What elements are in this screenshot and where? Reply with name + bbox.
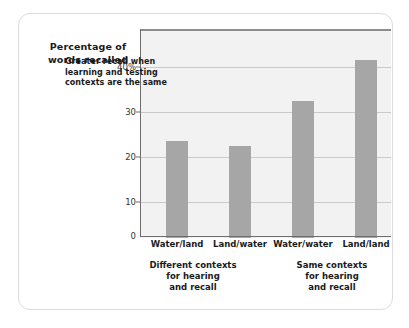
group-label-same-line-1: Same contexts: [273, 260, 391, 271]
figure-card: Percentage of words recalled 40% 30 20 1…: [18, 13, 393, 310]
group-label-same-contexts: Same contexts for hearing and recall: [273, 260, 391, 293]
bar-water-water[interactable]: [292, 101, 314, 238]
chart-annotation-line-2: learning and testing: [65, 68, 181, 79]
y-tick-label-10: 10: [102, 197, 136, 207]
gridline-30: [140, 112, 391, 113]
group-label-different-line-3: and recall: [134, 282, 252, 293]
bar-water-land[interactable]: [166, 141, 188, 238]
x-axis-line: [140, 236, 391, 237]
bar-land-land[interactable]: [355, 60, 377, 238]
x-axis-tick-labels: Water/land Land/water Water/water Land/l…: [140, 239, 391, 253]
y-tick-mark-10: [136, 202, 140, 203]
group-label-same-line-2: for hearing: [273, 271, 391, 282]
group-label-different-line-1: Different contexts: [134, 260, 252, 271]
y-tick-label-30: 30: [102, 107, 136, 117]
x-tick-label-land-water: Land/water: [208, 239, 272, 249]
chart-annotation-line-3: contexts are the same: [65, 78, 181, 89]
y-tick-mark-20: [136, 157, 140, 158]
x-tick-label-water-water: Water/water: [271, 239, 335, 249]
x-tick-label-land-land: Land/land: [334, 239, 398, 249]
x-axis-group-labels: Different contexts for hearing and recal…: [140, 260, 391, 302]
x-tick-label-water-land: Water/land: [145, 239, 209, 249]
y-tick-mark-30: [136, 112, 140, 113]
group-label-different-contexts: Different contexts for hearing and recal…: [134, 260, 252, 293]
y-tick-label-20: 20: [102, 152, 136, 162]
group-label-different-line-2: for hearing: [134, 271, 252, 282]
group-label-same-line-3: and recall: [273, 282, 391, 293]
y-tick-label-0: 0: [102, 231, 136, 241]
bar-land-water[interactable]: [229, 146, 251, 238]
chart-annotation-line-1: Greater recall when: [65, 57, 181, 68]
chart-annotation: Greater recall when learning and testing…: [65, 57, 181, 89]
